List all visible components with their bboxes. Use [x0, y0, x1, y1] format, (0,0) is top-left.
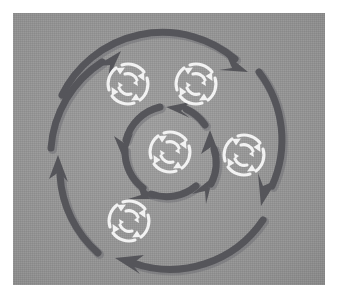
diagram-figure: Concentric rotating cycle diagram A grey…	[0, 0, 339, 300]
inner-arc-bottom	[151, 177, 213, 204]
outer-arc-bottom	[115, 220, 265, 274]
outer-arc-right	[258, 72, 283, 206]
inner-arc-top	[166, 102, 207, 127]
outer-arc-top	[62, 32, 248, 96]
inner-arc-left	[114, 107, 162, 160]
inner-arc-top-stroke	[186, 109, 205, 125]
refresh-cycle-icon	[150, 132, 190, 172]
refresh-cycle-icon	[109, 201, 149, 241]
outer-arc-right-stroke	[259, 72, 282, 186]
outer-arc-left	[49, 155, 100, 255]
inner-ring-group	[114, 102, 220, 204]
inner-arc-right	[201, 130, 220, 186]
refresh-cycle-icon	[224, 135, 264, 175]
refresh-icon-group	[108, 64, 264, 241]
refresh-cycle-icon	[176, 64, 216, 104]
inner-arc-right-arrowhead	[201, 130, 220, 156]
refresh-cycle-icon	[108, 64, 148, 104]
outer-arc-bottom-stroke	[133, 220, 263, 269]
inner-arc-right-stroke	[211, 149, 216, 184]
outer-ring-group	[49, 32, 283, 274]
diagram-canvas	[0, 0, 339, 300]
